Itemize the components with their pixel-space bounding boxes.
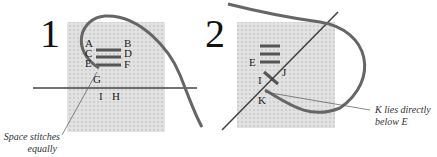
stitch-diagram: 1 A B C D E F G H I Space stitches equal… bbox=[0, 0, 437, 157]
label-e: E bbox=[85, 57, 92, 69]
caption-2-line-1: K lies directly bbox=[374, 104, 431, 115]
label-i: I bbox=[99, 90, 103, 102]
caption-2-line-2: below E bbox=[375, 116, 408, 127]
label-2-e: E bbox=[249, 56, 256, 68]
panel-1: 1 A B C D E F G H I Space stitches equal… bbox=[4, 11, 202, 154]
label-g: G bbox=[93, 73, 101, 85]
label-2-i: I bbox=[258, 74, 262, 86]
panel-2: 2 E J I K K lies directly below E bbox=[205, 4, 431, 130]
label-2-j: J bbox=[282, 66, 287, 78]
step-number-1: 1 bbox=[40, 11, 60, 56]
label-h: H bbox=[112, 90, 120, 102]
caption-1-line-2: equally bbox=[28, 143, 58, 154]
caption-1-line-1: Space stitches bbox=[4, 131, 60, 142]
step-number-2: 2 bbox=[205, 11, 225, 56]
label-f: F bbox=[124, 58, 130, 70]
label-2-k: K bbox=[258, 94, 266, 106]
